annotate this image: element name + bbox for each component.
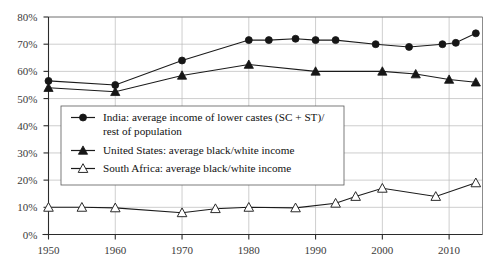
data-point-circle	[80, 114, 87, 121]
y-tick-label: 30%	[17, 147, 37, 159]
data-point-circle	[245, 37, 252, 44]
data-point-circle	[292, 35, 299, 42]
data-point-triangle-open	[471, 178, 481, 187]
y-axis-ticks-group: 0%10%20%30%40%50%60%70%80%	[17, 11, 48, 241]
x-tick-label: 1970	[171, 244, 194, 256]
y-tick-label: 0%	[23, 229, 38, 241]
x-tick-label: 1980	[238, 244, 261, 256]
data-point-circle	[312, 37, 319, 44]
chart-container: 0%10%20%30%40%50%60%70%80% 1950196019701…	[0, 0, 498, 269]
data-point-circle	[472, 30, 479, 37]
data-point-circle	[179, 57, 186, 64]
x-tick-label: 1950	[38, 244, 61, 256]
x-tick-label: 2010	[438, 244, 461, 256]
data-point-circle	[406, 43, 413, 50]
y-tick-label: 40%	[17, 120, 37, 132]
x-tick-label: 1990	[305, 244, 328, 256]
line-chart: 0%10%20%30%40%50%60%70%80% 1950196019701…	[0, 0, 498, 269]
x-axis-ticks-group: 1950196019701980199020002010	[38, 235, 461, 256]
legend-label: South Africa: average black/white income	[103, 162, 291, 174]
chart-legend: India: average income of lower castes (S…	[61, 106, 344, 185]
legend-label: United States: average black/white incom…	[103, 144, 294, 156]
y-tick-label: 20%	[17, 174, 37, 186]
y-tick-label: 60%	[17, 65, 37, 77]
data-point-triangle-open	[351, 192, 361, 201]
legend-label: India: average income of lower castes (S…	[103, 111, 325, 124]
series-filled-circle	[45, 30, 479, 89]
data-point-circle	[439, 41, 446, 48]
x-tick-label: 2000	[371, 244, 394, 256]
data-point-circle	[265, 37, 272, 44]
data-point-triangle	[244, 60, 253, 68]
legend-label: rest of population	[103, 125, 182, 137]
data-point-circle	[332, 37, 339, 44]
data-point-circle	[452, 39, 459, 46]
data-point-triangle	[44, 83, 53, 91]
x-tick-label: 1960	[104, 244, 127, 256]
y-tick-label: 10%	[17, 201, 37, 213]
y-tick-label: 80%	[17, 11, 37, 23]
y-tick-label: 50%	[17, 93, 37, 105]
y-tick-label: 70%	[17, 38, 37, 50]
series-filled-triangle	[44, 60, 481, 96]
data-point-circle	[372, 41, 379, 48]
data-point-triangle-open	[331, 198, 341, 207]
data-point-triangle-open	[378, 183, 388, 192]
